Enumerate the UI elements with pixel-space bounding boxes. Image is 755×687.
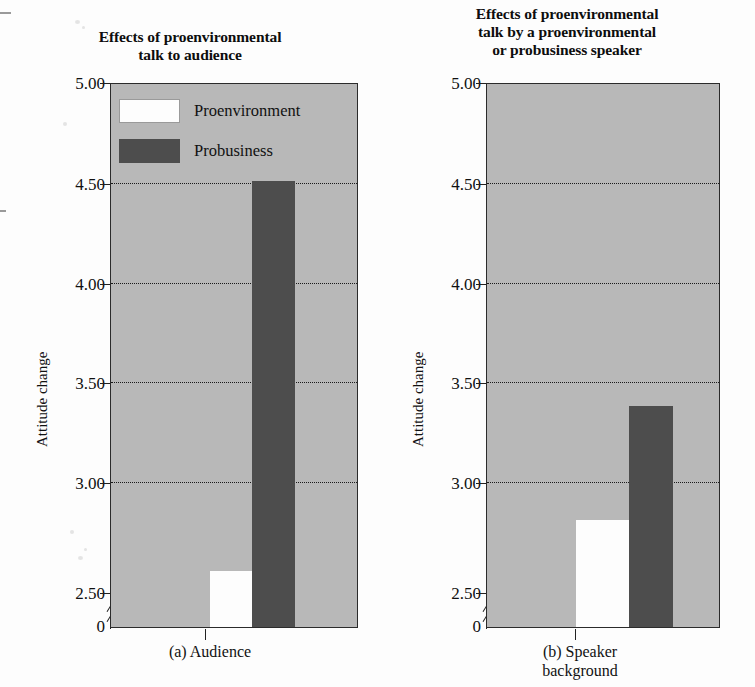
y-axis-title-a: Attitude change (34, 352, 51, 447)
gridline-b-350 (487, 382, 719, 383)
y-tick-label-a-250: 2.50 (43, 585, 105, 602)
legend-label-probusiness: Probusiness (194, 141, 273, 161)
x-tick-mark-a (205, 629, 206, 640)
chart-title-b-line3: or probusiness speaker (402, 41, 732, 59)
legend-swatch-probusiness-icon (119, 139, 180, 163)
bar-a-proenvironment (210, 571, 252, 627)
scan-edge-mark (0, 12, 11, 14)
scan-speckle (78, 556, 83, 560)
bar-b-probusiness (629, 406, 673, 627)
scan-speckle (63, 122, 67, 126)
scan-speckle (70, 530, 74, 534)
plot-area-a: Proenvironment Probusiness (110, 83, 358, 628)
legend-label-proenvironment: Proenvironment (194, 101, 300, 121)
gridline-b-400 (487, 283, 719, 284)
y-tick-label-a-350: 3.50 (43, 375, 105, 392)
x-axis-caption-b-line2: background (495, 661, 665, 680)
scan-speckle (82, 26, 85, 29)
y-tick-label-a-300: 3.00 (43, 475, 105, 492)
chart-title-b: Effects of proenvironmental talk by a pr… (402, 5, 732, 59)
gridline-a-400 (111, 283, 357, 284)
scan-edge-mark-left (0, 210, 6, 212)
chart-panel-b: Effects of proenvironmental talk by a pr… (380, 0, 755, 687)
y-tick-label-a-500: 5.00 (43, 75, 105, 92)
y-tick-label-a-400: 4.00 (43, 276, 105, 293)
legend-swatch-proenvironment-icon (119, 99, 180, 123)
gridline-b-450 (487, 183, 719, 184)
legend-item-proenvironment: Proenvironment (119, 99, 300, 123)
gridline-b-300 (487, 482, 719, 483)
y-tick-label-b-350: 3.50 (419, 375, 481, 392)
x-axis-caption-a: (a) Audience (125, 642, 295, 661)
x-axis-caption-a-line1: (a) Audience (125, 642, 295, 661)
scan-speckle (84, 548, 87, 551)
scan-speckle (75, 20, 80, 24)
chart-panel-a: Effects of proenvironmental talk to audi… (0, 0, 380, 687)
y-tick-label-b-250: 2.50 (419, 585, 481, 602)
gridline-a-350 (111, 382, 357, 383)
y-tick-label-b-400: 4.00 (419, 276, 481, 293)
chart-title-a: Effects of proenvironmental talk to audi… (40, 28, 340, 64)
y-tick-label-b-500: 5.00 (419, 75, 481, 92)
y-tick-label-b-zero: 0 (419, 618, 481, 635)
x-tick-mark-b (575, 629, 576, 640)
plot-area-b (486, 83, 720, 628)
y-tick-label-a-450: 4.50 (43, 176, 105, 193)
y-axis-title-b: Attitude change (410, 352, 427, 447)
chart-title-b-line1: Effects of proenvironmental (402, 5, 732, 23)
x-axis-caption-b-line1: (b) Speaker (495, 642, 665, 661)
chart-title-a-line2: talk to audience (40, 46, 340, 64)
y-tick-label-b-300: 3.00 (419, 475, 481, 492)
y-tick-label-b-450: 4.50 (419, 176, 481, 193)
y-tick-label-a-zero: 0 (43, 618, 105, 635)
x-axis-caption-b: (b) Speaker background (495, 642, 665, 680)
chart-title-b-line2: talk by a proenvironmental (402, 23, 732, 41)
chart-title-a-line1: Effects of proenvironmental (40, 28, 340, 46)
gridline-a-450 (111, 183, 357, 184)
bar-b-proenvironment (576, 520, 629, 627)
legend-item-probusiness: Probusiness (119, 139, 273, 163)
bar-a-probusiness (252, 181, 295, 627)
gridline-a-300 (111, 482, 357, 483)
